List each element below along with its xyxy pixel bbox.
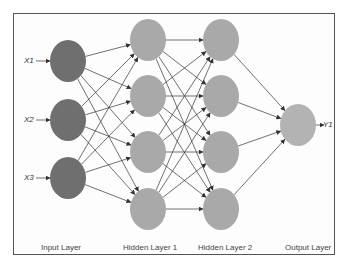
connection-edge [78,57,138,160]
input-label-x3: X3 [24,173,34,182]
connection-edge [85,68,131,88]
hidden-node [203,75,239,117]
hidden-node [130,75,166,117]
connection-edge [238,131,281,146]
connection-edge [78,79,139,191]
input-label-x2: X2 [24,115,34,124]
connection-edge [238,102,281,118]
output-label-y1: Y1 [323,120,333,129]
connection-edge [85,185,131,203]
connection-edge [234,54,285,110]
input-node [50,157,86,199]
hidden-node [130,19,166,61]
connection-edge [86,45,131,57]
input-node [50,40,86,82]
hidden-node [130,131,166,173]
connection-edge [85,127,131,145]
neural-network-diagram [0,0,349,269]
connection-edge [82,54,135,107]
input-label-x1: X1 [24,56,34,65]
hidden-node [203,188,239,230]
connection-edge [85,101,130,115]
hidden-node [203,131,239,173]
layer-label-input: Input Layer [41,243,81,252]
hidden-node [130,188,166,230]
connection-edge [82,110,135,164]
layer-label-output: Output Layer [285,243,331,252]
layer-label-hidden1: Hidden Layer 1 [123,243,177,252]
connection-edge [234,139,285,194]
nodes [50,19,316,230]
layer-label-hidden2: Hidden Layer 2 [198,243,252,252]
output-node [280,104,316,146]
input-node [50,99,86,141]
hidden-node [203,19,239,61]
